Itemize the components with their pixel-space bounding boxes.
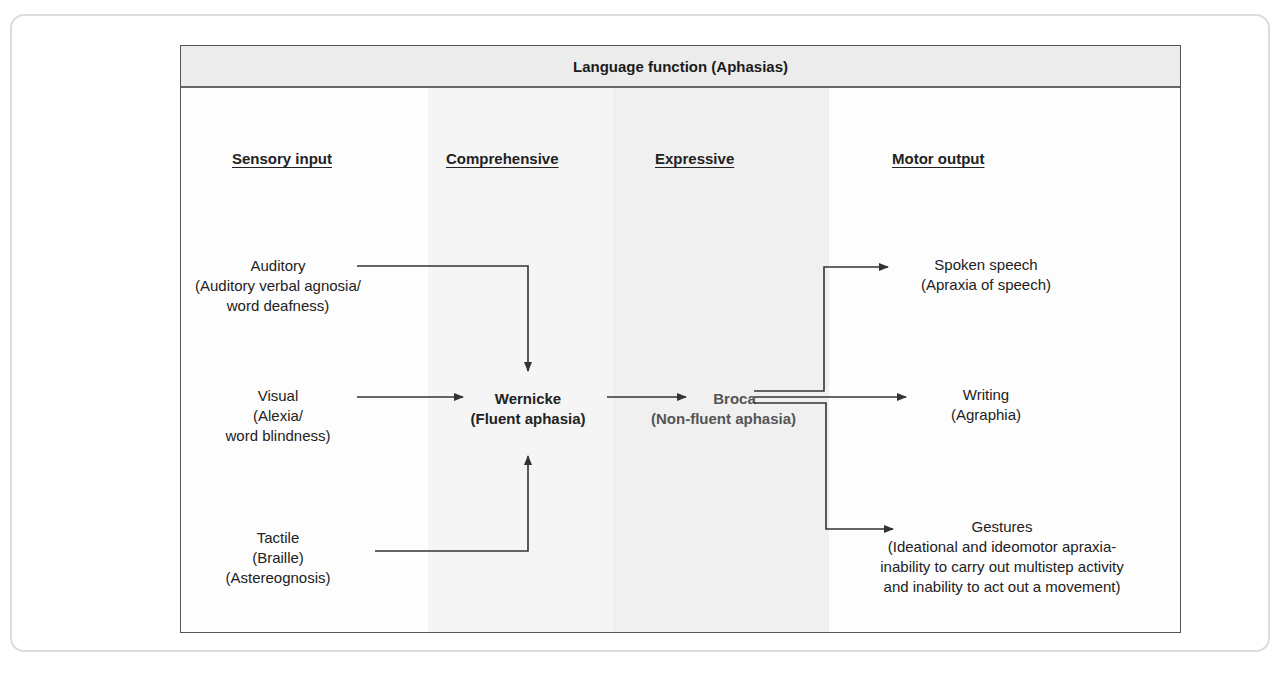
connector-arrows (181, 46, 1181, 633)
arrow-broca-to-gestures (754, 403, 893, 529)
arrow-broca-to-speech (754, 267, 888, 391)
arrow-tactile-to-wernicke (375, 456, 528, 551)
arrow-auditory-to-wernicke (357, 266, 528, 371)
aphasia-diagram: Language function (Aphasias) Sensory inp… (180, 45, 1181, 633)
